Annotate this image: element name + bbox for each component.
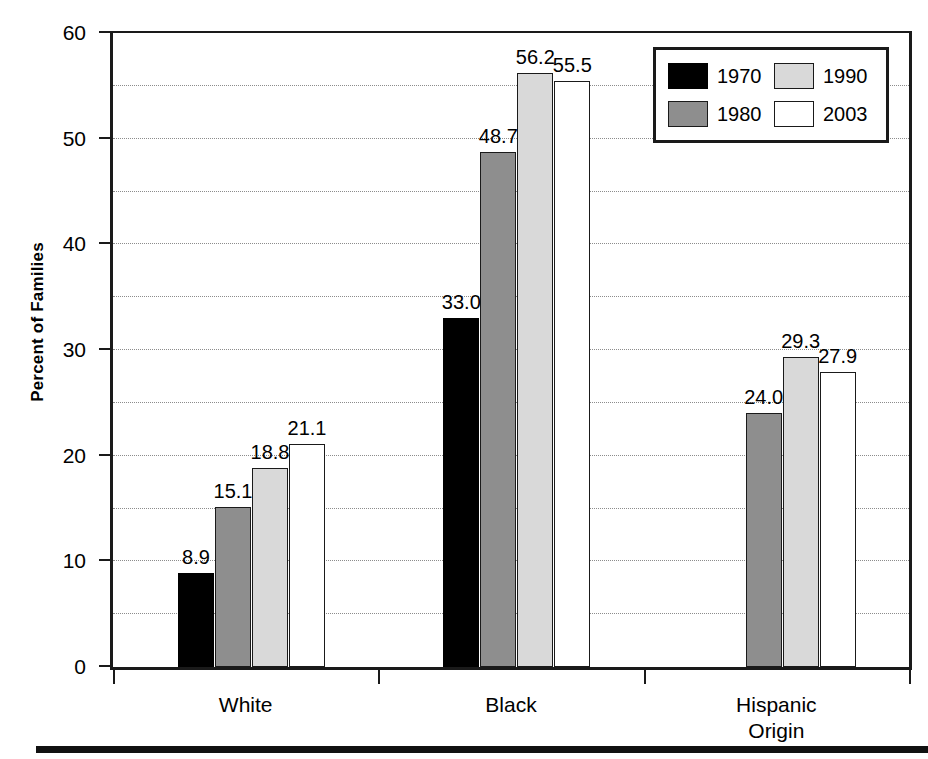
bar: [480, 152, 516, 667]
bar: [746, 413, 782, 667]
x-axis-tick: [113, 667, 115, 684]
y-axis-tick: [99, 665, 113, 667]
legend-swatch-icon: [774, 101, 814, 127]
legend-entry: 1970: [668, 59, 768, 93]
bar: [820, 372, 856, 667]
x-axis-category-label: Black: [378, 692, 643, 718]
bar-value-label: 55.5: [539, 55, 605, 75]
x-axis-tick: [909, 667, 911, 684]
legend-label: 1980: [717, 104, 762, 124]
x-axis-category-label: Hispanic Origin: [644, 692, 909, 744]
y-axis-tick-label: 0: [16, 656, 86, 677]
y-axis-tick-label: 20: [16, 445, 86, 466]
x-axis-category-label: White: [113, 692, 378, 718]
y-axis-tick: [99, 348, 113, 350]
legend-entry: 1980: [668, 97, 768, 131]
legend-swatch-icon: [668, 101, 708, 127]
y-axis-tick-label: 30: [16, 339, 86, 360]
y-axis-tick-label: 40: [16, 233, 86, 254]
legend-label: 2003: [823, 104, 868, 124]
footer-rule: [36, 746, 928, 753]
y-axis-tick: [99, 454, 113, 456]
bar-value-label: 33.0: [428, 292, 494, 312]
y-axis-tick-label: 50: [16, 128, 86, 149]
bar-value-label: 48.7: [465, 126, 531, 146]
legend-label: 1970: [717, 66, 762, 86]
legend-label: 1990: [823, 66, 868, 86]
bar-chart-figure: Percent of Families 0102030405060 8.915.…: [0, 0, 928, 759]
bar-value-label: 15.1: [200, 481, 266, 501]
legend: 1970199019802003: [653, 47, 889, 143]
legend-entry: 1990: [774, 59, 874, 93]
y-axis-tick-label: 10: [16, 550, 86, 571]
bar-value-label: 8.9: [163, 547, 229, 567]
bar: [443, 318, 479, 667]
bar: [215, 507, 251, 667]
bar: [517, 73, 553, 667]
y-axis-tick: [99, 137, 113, 139]
legend-entry: 2003: [774, 97, 874, 131]
bar-value-label: 27.9: [805, 346, 871, 366]
bar: [178, 573, 214, 667]
y-axis-tick-label: 60: [16, 22, 86, 43]
y-axis-tick: [99, 31, 113, 33]
y-axis-tick: [99, 559, 113, 561]
bar: [554, 81, 590, 667]
x-axis-tick: [378, 667, 380, 684]
bar-value-label: 18.8: [237, 442, 303, 462]
y-axis-title: Percent of Families: [28, 22, 48, 622]
x-axis-tick: [644, 667, 646, 684]
legend-swatch-icon: [668, 63, 708, 89]
bar: [289, 444, 325, 667]
legend-grid: 1970199019802003: [668, 59, 874, 131]
legend-swatch-icon: [774, 63, 814, 89]
bar-value-label: 21.1: [274, 418, 340, 438]
bar-value-label: 24.0: [731, 387, 797, 407]
y-axis-tick: [99, 242, 113, 244]
